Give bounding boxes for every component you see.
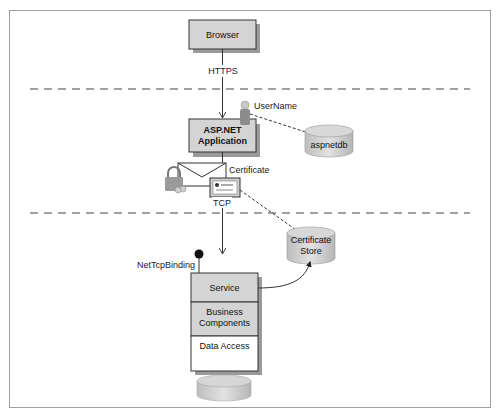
endpoint-dot-icon	[195, 250, 204, 259]
aspnetdb-label: aspnetdb	[310, 140, 347, 150]
binding-label: NetTcpBinding	[137, 260, 195, 270]
https-label: HTTPS	[208, 66, 238, 76]
service-label: Service	[209, 283, 239, 293]
database-cylinder	[197, 375, 251, 401]
aspnet-label-line1: ASP.NET	[204, 125, 242, 135]
browser-label: Browser	[206, 30, 239, 40]
browser-node: Browser	[189, 20, 260, 53]
cert-store-label-line2: Store	[300, 246, 322, 256]
service-stack: Service Business Components Data Access	[191, 273, 262, 375]
certificate-label: Certificate	[229, 165, 270, 175]
certificate-store-database: Certificate Store	[287, 227, 335, 264]
aspnet-label-line2: Application	[198, 136, 247, 146]
business-label-line2: Components	[199, 318, 251, 328]
architecture-diagram: Browser HTTPS ASP.NET Application UserNa…	[0, 0, 500, 416]
cert-store-label-line1: Certificate	[291, 235, 332, 245]
aspnet-application-node: ASP.NET Application	[189, 119, 260, 157]
aspnetdb-database: aspnetdb	[305, 125, 353, 157]
tcp-label: TCP	[213, 198, 231, 208]
certificate-icon	[210, 178, 240, 197]
username-label: UserName	[254, 101, 297, 111]
business-label-line1: Business	[206, 307, 243, 317]
user-icon	[240, 101, 250, 125]
data-access-label: Data Access	[199, 341, 250, 351]
